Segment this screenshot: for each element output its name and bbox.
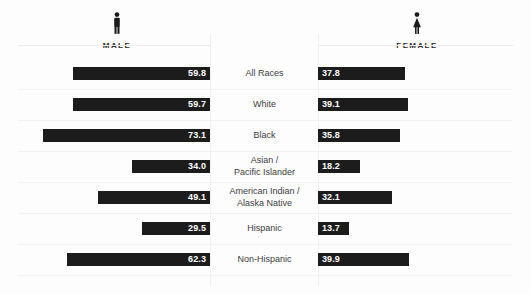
female-bar-value: 13.7 <box>322 224 340 233</box>
female-bar: 13.7 <box>318 222 349 235</box>
category-label: White <box>211 89 318 120</box>
male-figure-icon <box>110 8 124 38</box>
female-bar-value: 18.2 <box>322 162 340 171</box>
category-label: Non-Hispanic <box>211 244 318 275</box>
male-bar: 49.1 <box>98 191 210 204</box>
female-figure-icon <box>410 8 424 38</box>
male-bar: 29.5 <box>142 222 210 235</box>
category-label-line1: White <box>253 99 276 110</box>
female-bar: 18.2 <box>318 160 360 173</box>
category-label: Hispanic <box>211 213 318 244</box>
category-label-line1: Hispanic <box>247 223 282 234</box>
male-bar-value: 59.7 <box>188 100 206 109</box>
male-bar: 73.1 <box>43 129 210 142</box>
male-header-rule <box>18 45 210 46</box>
category-label-line2: Alaska Native <box>237 198 292 209</box>
category-label-line2: Pacific Islander <box>234 167 295 178</box>
female-bar: 35.8 <box>318 129 400 142</box>
female-bar: 37.8 <box>318 67 405 80</box>
male-bar: 62.3 <box>67 253 210 266</box>
category-label-line1: Asian / <box>251 155 279 166</box>
female-bar-value: 37.8 <box>322 69 340 78</box>
female-bar: 39.9 <box>318 253 409 266</box>
diverging-bar-chart: MALE FEMALE 59.8All Races37.859.7White39… <box>0 0 531 294</box>
male-bar-value: 29.5 <box>188 224 206 233</box>
male-bar-value: 73.1 <box>188 131 206 140</box>
male-bar-value: 62.3 <box>188 255 206 264</box>
chart-row: 29.5Hispanic13.7 <box>0 213 531 244</box>
male-bar-value: 34.0 <box>188 162 206 171</box>
chart-rows: 59.8All Races37.859.7White39.173.1Black3… <box>0 58 531 275</box>
chart-row: 59.8All Races37.8 <box>0 58 531 89</box>
category-label: Black <box>211 120 318 151</box>
male-bar: 34.0 <box>132 160 210 173</box>
female-bar-value: 39.9 <box>322 255 340 264</box>
chart-row: 73.1Black35.8 <box>0 120 531 151</box>
chart-header: MALE FEMALE <box>0 0 531 58</box>
chart-row: 49.1American Indian /Alaska Native32.1 <box>0 182 531 213</box>
female-bar-value: 32.1 <box>322 193 340 202</box>
male-bar-value: 49.1 <box>188 193 206 202</box>
category-label: Asian /Pacific Islander <box>211 151 318 182</box>
male-bar: 59.8 <box>73 67 210 80</box>
female-bar: 32.1 <box>318 191 392 204</box>
category-label: American Indian /Alaska Native <box>211 182 318 213</box>
category-label-line1: Non-Hispanic <box>237 254 291 265</box>
male-header-group: MALE <box>57 8 177 50</box>
female-header-rule <box>318 45 513 46</box>
female-header-group: FEMALE <box>357 8 477 50</box>
category-label-line1: All Races <box>245 68 283 79</box>
chart-row: 59.7White39.1 <box>0 89 531 120</box>
female-bar-value: 35.8 <box>322 131 340 140</box>
category-label-line1: American Indian / <box>229 186 299 197</box>
male-bar-value: 59.8 <box>188 69 206 78</box>
female-bar-value: 39.1 <box>322 100 340 109</box>
category-label: All Races <box>211 58 318 89</box>
female-bar: 39.1 <box>318 98 408 111</box>
male-bar: 59.7 <box>73 98 210 111</box>
chart-row: 62.3Non-Hispanic39.9 <box>0 244 531 275</box>
chart-row: 34.0Asian /Pacific Islander18.2 <box>0 151 531 182</box>
category-label-line1: Black <box>253 130 275 141</box>
